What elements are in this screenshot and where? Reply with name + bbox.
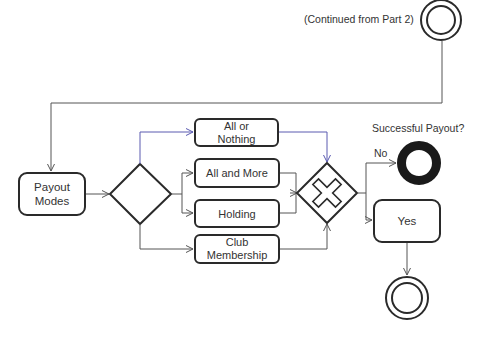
merge-gateway-icon — [297, 163, 357, 223]
holding-label: Holding — [218, 207, 255, 221]
club-membership-task[interactable]: Club Membership — [194, 234, 280, 264]
question-label: Successful Payout? — [372, 122, 464, 134]
all-or-nothing-task[interactable]: All or Nothing — [194, 118, 279, 147]
no-label: No — [374, 147, 387, 159]
end-fail-event-icon — [402, 146, 437, 181]
connector-merge-to-no — [366, 163, 396, 193]
continued-event-icon — [421, 0, 461, 40]
yes-task[interactable]: Yes — [373, 199, 441, 243]
payout-modes-task[interactable]: Payout Modes — [18, 172, 86, 216]
connector-club-to-merge — [280, 224, 327, 249]
payout-modes-label: Payout Modes — [34, 180, 70, 208]
all-and-more-label: All and More — [206, 166, 268, 180]
yes-label: Yes — [398, 214, 417, 228]
connector-split-to-all-or-nothing — [140, 132, 193, 164]
continued-label: (Continued from Part 2) — [304, 13, 414, 25]
club-membership-label: Club Membership — [207, 236, 268, 262]
connector-merge-to-yes — [366, 193, 372, 220]
connector-holding-to-merge — [280, 193, 296, 213]
connector-split-to-holding — [182, 194, 193, 213]
connector-all-and-more-to-merge — [280, 173, 296, 193]
connector-split-to-club — [140, 224, 193, 249]
end-success-event-icon — [386, 277, 428, 319]
all-or-nothing-label: All or Nothing — [218, 120, 256, 146]
holding-task[interactable]: Holding — [194, 199, 280, 228]
connector-split-to-all-and-more — [182, 173, 193, 194]
connector-all-or-nothing-to-merge — [279, 132, 327, 162]
all-and-more-task[interactable]: All and More — [194, 158, 280, 188]
split-gateway-icon — [110, 164, 171, 224]
